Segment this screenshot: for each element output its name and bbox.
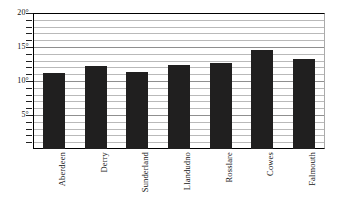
- y-tick-18: [26, 27, 32, 28]
- x-axis-label-text: Rosslare: [225, 152, 234, 182]
- y-tick-6: [26, 108, 32, 109]
- y-tick-9: [26, 88, 32, 89]
- y-tick-4: [26, 122, 32, 123]
- y-tick-11: [26, 74, 32, 75]
- y-tick-7: [26, 101, 32, 102]
- x-axis-label-text: Falmouth: [308, 152, 317, 186]
- y-tick-14: [26, 54, 32, 55]
- bar-cowes: [251, 50, 273, 149]
- x-axis-label-sunderland: Sunderland: [141, 152, 150, 192]
- x-axis-label-aberdeen: Aberdeen: [58, 152, 67, 186]
- x-axis-label-text: Sunderland: [141, 152, 150, 192]
- x-axis-label-derry: Derry: [100, 152, 109, 173]
- bar-llandudno: [168, 65, 190, 149]
- bar-falmouth: [293, 59, 315, 149]
- x-axis-label-cowes: Cowes: [266, 152, 275, 176]
- y-tick-13: [26, 61, 32, 62]
- bar-sunderland: [126, 72, 148, 149]
- x-axis-label-llandudno: Llandudno: [183, 152, 192, 190]
- x-axis-label-text: Aberdeen: [58, 152, 67, 186]
- y-tick-2: [26, 135, 32, 136]
- bar-aberdeen: [43, 73, 65, 149]
- y-tick-16: [26, 40, 32, 41]
- x-axis-label-falmouth: Falmouth: [308, 152, 317, 186]
- x-axis-label-text: Cowes: [266, 152, 275, 176]
- y-tick-3: [26, 129, 32, 130]
- y-tick-1: [26, 142, 32, 143]
- x-axis-label-rosslare: Rosslare: [225, 152, 234, 182]
- y-tick-17: [26, 33, 32, 34]
- y-tick-19: [26, 20, 32, 21]
- bar-derry: [85, 66, 107, 149]
- x-axis-labels: AberdeenDerrySunderlandLlandudnoRosslare…: [33, 150, 325, 216]
- bar-chart: 20° 15° 10° 5° AberdeenDerrySunderlandLl…: [0, 0, 340, 216]
- x-axis-label-text: Derry: [100, 152, 109, 173]
- y-axis-labels: 20° 15° 10° 5°: [0, 0, 29, 216]
- x-axis-label-text: Llandudno: [183, 152, 192, 190]
- y-tick-8: [26, 95, 32, 96]
- bar-rosslare: [210, 63, 232, 149]
- bars-layer: [33, 13, 325, 149]
- y-tick-12: [26, 67, 32, 68]
